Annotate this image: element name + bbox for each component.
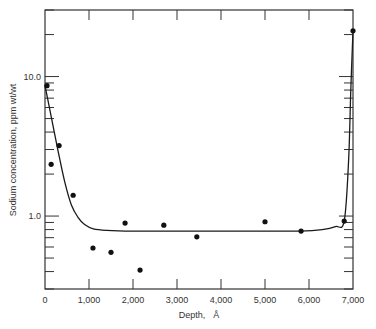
data-point — [44, 83, 49, 88]
data-point — [262, 219, 267, 224]
data-point — [194, 234, 199, 239]
data-point — [122, 221, 127, 226]
data-point — [161, 223, 166, 228]
data-point — [56, 143, 61, 148]
data-point — [298, 229, 303, 234]
data-points — [44, 28, 355, 273]
x-axis-title: Depth,Å — [179, 310, 220, 320]
x-tick-label: 5,000 — [254, 295, 277, 305]
x-axis-ticks — [89, 10, 309, 289]
data-point — [108, 250, 113, 255]
data-point — [49, 162, 54, 167]
x-tick-label: 2,000 — [122, 295, 145, 305]
chart: 01,0002,0003,0004,0005,0006,0007,000 10.… — [0, 0, 376, 329]
x-tick-label: 1,000 — [78, 295, 101, 305]
data-point — [342, 219, 347, 224]
y-axis-tick-labels: 10.01.0 — [23, 72, 41, 222]
data-point — [350, 28, 355, 33]
y-tick-label: 10.0 — [23, 72, 41, 82]
x-tick-label: 6,000 — [298, 295, 321, 305]
y-tick-label: 1.0 — [28, 211, 41, 221]
x-tick-label: 0 — [42, 295, 47, 305]
data-point — [71, 193, 76, 198]
fitted-curve — [45, 31, 353, 231]
data-point — [90, 245, 95, 250]
x-axis-tick-labels: 01,0002,0003,0004,0005,0006,0007,000 — [42, 295, 364, 305]
x-tick-label: 4,000 — [210, 295, 233, 305]
x-tick-label: 3,000 — [166, 295, 189, 305]
y-axis-title: Sodium concentration, ppm wt/wt — [8, 83, 18, 216]
x-tick-label: 7,000 — [342, 295, 365, 305]
data-point — [137, 267, 142, 272]
